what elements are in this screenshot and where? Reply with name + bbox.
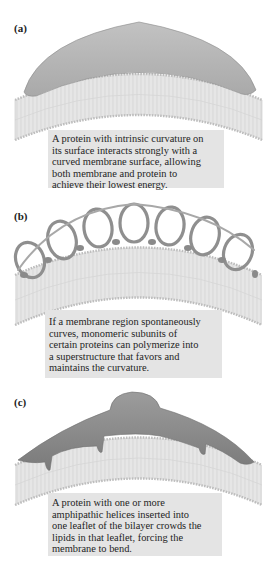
caption-line: curved membrane surface, allowing xyxy=(52,156,220,168)
caption-line: curves, monomeric subunits of xyxy=(49,328,218,340)
caption-line: its surface interacts strongly with a xyxy=(52,145,220,157)
panel-b: (b) If a membrane region spontaneously c… xyxy=(0,190,278,390)
panel-label-c: (c) xyxy=(14,396,26,408)
caption-line: If a membrane region spontaneously xyxy=(49,316,218,328)
caption-line: membrane to bend. xyxy=(52,543,218,555)
panel-label-b: (b) xyxy=(14,210,27,222)
caption-b: If a membrane region spontaneously curve… xyxy=(45,310,222,378)
panel-a: (a) A protein with intrinsic curvature o… xyxy=(0,0,278,190)
caption-line: both membrane and protein to xyxy=(52,168,220,180)
caption-line: a superstructure that favors and xyxy=(49,351,218,363)
caption-line: A protein with one or more xyxy=(52,497,218,509)
caption-line: achieve their lowest energy. xyxy=(52,179,220,191)
caption-c: A protein with one or more amphipathic h… xyxy=(48,493,222,556)
panel-c: (c) A protein with one or more amphipath… xyxy=(0,390,278,570)
caption-line: one leaflet of the bilayer crowds the xyxy=(52,520,218,532)
caption-line: amphipathic helices inserted into xyxy=(52,509,218,521)
caption-line: maintains the curvature. xyxy=(49,362,218,374)
caption-line: lipids in that leaflet, forcing the xyxy=(52,532,218,544)
caption-a: A protein with intrinsic curvature on it… xyxy=(48,130,224,188)
panel-label-a: (a) xyxy=(14,22,27,34)
caption-line: A protein with intrinsic curvature on xyxy=(52,133,220,145)
caption-line: certain proteins can polymerize into xyxy=(49,339,218,351)
